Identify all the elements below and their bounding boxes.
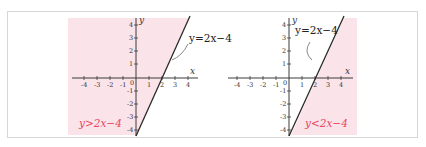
y-tick-label: -3	[127, 114, 133, 121]
y-tick-label: 3	[282, 35, 286, 42]
y-tick-label: -2	[127, 101, 133, 108]
inequality-label: y>2x−4	[79, 118, 122, 129]
y-axis-label: y	[139, 16, 144, 25]
x-tick-label: 2	[160, 82, 164, 89]
line-equation-label: y=2x−4	[295, 25, 338, 36]
x-tick-label: -1	[120, 82, 126, 89]
x-axis-label: x	[345, 67, 350, 76]
x-tick-label: -4	[81, 82, 87, 89]
inequality-graphs	[0, 0, 426, 147]
y-tick-label: 1	[282, 61, 286, 68]
y-tick-label: -1	[280, 88, 286, 95]
x-tick-label: -3	[247, 82, 253, 89]
y-tick-label: -4	[280, 127, 286, 134]
origin-label: 0	[283, 80, 287, 87]
x-tick-label: 1	[300, 82, 304, 89]
x-tick-label: 4	[186, 82, 190, 89]
x-axis-label: x	[190, 67, 195, 76]
x-tick-label: 4	[339, 82, 343, 89]
x-tick-label: 2	[313, 82, 317, 89]
y-tick-label: 3	[129, 35, 133, 42]
x-tick-label: 3	[326, 82, 330, 89]
y-tick-label: -1	[127, 88, 133, 95]
x-tick-label: 1	[147, 82, 151, 89]
y-tick-label: 2	[129, 48, 133, 55]
line-equation-label: y=2x−4	[189, 33, 232, 44]
y-tick-label: 2	[282, 48, 286, 55]
x-tick-label: -2	[107, 82, 113, 89]
origin-label: 0	[130, 80, 134, 87]
y-tick-label: 4	[282, 22, 286, 29]
x-tick-label: 3	[173, 82, 177, 89]
x-tick-label: -1	[273, 82, 279, 89]
y-tick-label: -2	[280, 101, 286, 108]
x-tick-label: -3	[94, 82, 100, 89]
y-tick-label: -3	[280, 114, 286, 121]
y-tick-label: 1	[129, 61, 133, 68]
x-tick-label: -4	[234, 82, 240, 89]
y-tick-label: 4	[129, 22, 133, 29]
inequality-label: y<2x−4	[305, 118, 348, 129]
y-tick-label: -4	[127, 127, 133, 134]
label-leader-right	[307, 42, 312, 60]
x-tick-label: -2	[260, 82, 266, 89]
